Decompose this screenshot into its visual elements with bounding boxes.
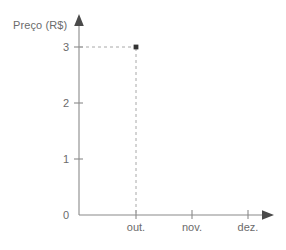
y-tick-label-0: 0 [49,209,69,221]
chart-plot-area [0,0,286,250]
x-axis-arrowhead-icon [262,210,274,220]
x-tick-label-dez: dez. [226,221,270,233]
x-tick-label-nov: nov. [170,221,214,233]
x-tick-label-out: out. [114,221,158,233]
price-chart: Preço (R$) 0 1 2 3 out. nov. dez. [0,0,286,250]
data-point-marker [134,45,139,50]
y-tick-label-3: 3 [49,41,69,53]
y-tick-label-1: 1 [49,153,69,165]
y-tick-label-2: 2 [49,97,69,109]
y-axis-arrowhead-icon [74,14,84,26]
